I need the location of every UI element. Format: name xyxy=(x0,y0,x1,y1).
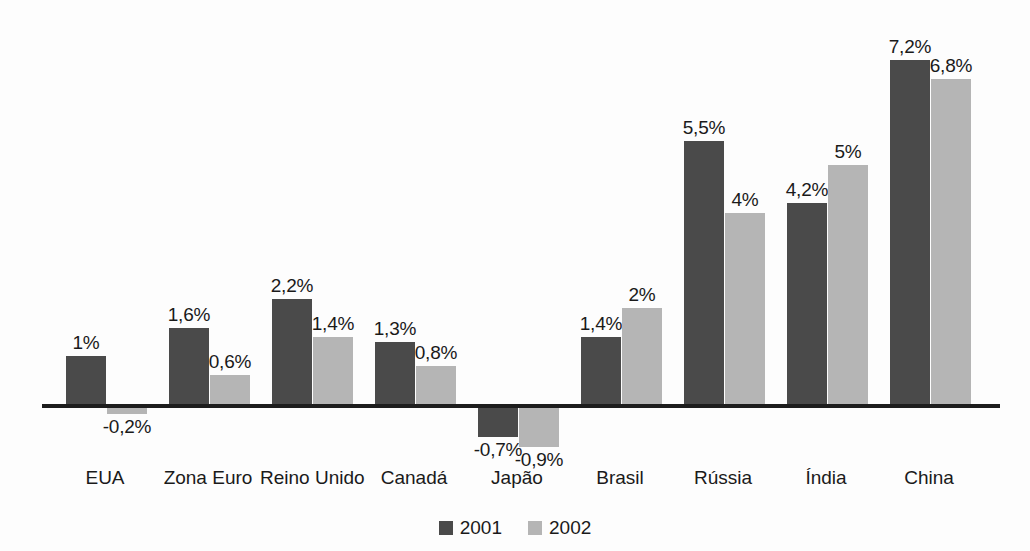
legend-swatch-icon xyxy=(528,521,542,535)
bar-2002[interactable] xyxy=(725,213,765,404)
bar-group: 2,2%1,4% xyxy=(260,0,362,470)
category-label-china: China xyxy=(878,466,980,490)
category-label-brasil: Brasil xyxy=(569,466,671,490)
bar-2001[interactable] xyxy=(66,356,106,404)
category-label-japão: Japão xyxy=(466,466,568,490)
bar-group: 1,4%2% xyxy=(569,0,671,470)
bar-2002[interactable] xyxy=(519,404,559,447)
bar-value-label: 5% xyxy=(834,141,861,163)
bar-2002[interactable] xyxy=(622,308,662,404)
bar-2002[interactable] xyxy=(931,79,971,404)
category-label-eua: EUA xyxy=(54,466,156,490)
legend-label: 2001 xyxy=(460,518,502,538)
bar-value-label: 1% xyxy=(72,332,99,354)
category-label-rússia: Rússia xyxy=(672,466,774,490)
bar-group: 5,5%4% xyxy=(672,0,774,470)
bar-group: 1%-0,2% xyxy=(54,0,156,470)
bar-2001[interactable] xyxy=(787,203,827,404)
category-label-zona-euro: Zona Euro xyxy=(157,466,259,490)
bar-group: 4,2%5% xyxy=(775,0,877,470)
bar-group: -0,7%-0,9% xyxy=(466,0,568,470)
bar-value-label: 1,4% xyxy=(580,313,623,335)
bar-value-label: 0,8% xyxy=(415,342,458,364)
legend-label: 2002 xyxy=(549,518,591,538)
bar-group: 1,3%0,8% xyxy=(363,0,465,470)
bar-value-label: 4,2% xyxy=(786,179,829,201)
zero-axis-line xyxy=(42,404,1000,408)
bar-2001[interactable] xyxy=(890,60,930,404)
bar-2001[interactable] xyxy=(375,342,415,404)
bar-2001[interactable] xyxy=(272,299,312,404)
bar-value-label: -0,2% xyxy=(103,416,152,438)
bar-value-label: 1,4% xyxy=(312,313,355,335)
bar-value-label: 0,6% xyxy=(209,351,252,373)
bar-value-label: 6,8% xyxy=(930,55,973,77)
bar-value-label: 2,2% xyxy=(271,275,314,297)
category-label-índia: Índia xyxy=(775,466,877,490)
bar-2001[interactable] xyxy=(478,404,518,437)
plot-area: 1%-0,2%1,6%0,6%2,2%1,4%1,3%0,8%-0,7%-0,9… xyxy=(0,0,1030,470)
bar-2002[interactable] xyxy=(828,165,868,404)
bar-2001[interactable] xyxy=(169,328,209,404)
category-label-reino-unido: Reino Unido xyxy=(260,466,362,490)
category-label-canadá: Canadá xyxy=(363,466,465,490)
bar-value-label: 5,5% xyxy=(683,117,726,139)
bar-value-label: 7,2% xyxy=(889,36,932,58)
bar-value-label: 4% xyxy=(731,189,758,211)
bar-2002[interactable] xyxy=(416,366,456,404)
chart-legend: 20012002 xyxy=(0,518,1030,538)
bar-2002[interactable] xyxy=(210,375,250,404)
legend-item-2002[interactable]: 2002 xyxy=(528,518,591,538)
bar-value-label: 2% xyxy=(628,284,655,306)
bar-group: 7,2%6,8% xyxy=(878,0,980,470)
bar-2001[interactable] xyxy=(581,337,621,404)
bar-chart: 1%-0,2%1,6%0,6%2,2%1,4%1,3%0,8%-0,7%-0,9… xyxy=(0,0,1030,551)
bar-2002[interactable] xyxy=(313,337,353,404)
bar-value-label: 1,3% xyxy=(374,318,417,340)
bar-value-label: 1,6% xyxy=(168,304,211,326)
legend-item-2001[interactable]: 2001 xyxy=(439,518,502,538)
bar-2001[interactable] xyxy=(684,141,724,404)
legend-swatch-icon xyxy=(439,521,453,535)
bar-group: 1,6%0,6% xyxy=(157,0,259,470)
